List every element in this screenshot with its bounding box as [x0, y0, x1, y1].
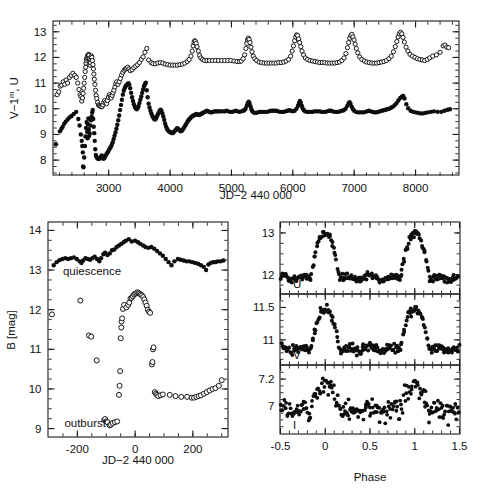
tick-label: 1 — [412, 440, 418, 452]
data-point-filled — [309, 278, 313, 282]
data-point-filled — [116, 118, 120, 122]
data-point-open — [90, 58, 94, 62]
data-point-filled — [457, 410, 461, 414]
data-point-open — [84, 65, 88, 69]
tick-label: 9 — [40, 128, 46, 140]
tick-label: 0 — [322, 440, 328, 452]
data-point-filled — [406, 397, 410, 401]
data-point-filled — [448, 107, 452, 111]
data-point-filled — [424, 389, 428, 393]
data-point-filled — [389, 416, 393, 420]
data-point-filled — [409, 392, 413, 396]
top-xaxis-label: JD−2 440 000 — [220, 189, 292, 201]
tick-label: 13 — [29, 264, 42, 276]
data-point-filled — [145, 88, 149, 92]
data-point-open — [389, 54, 393, 58]
data-point-filled — [355, 345, 359, 349]
data-point-filled — [93, 139, 97, 143]
data-point-filled — [385, 413, 389, 417]
data-point-filled — [296, 404, 300, 408]
data-point-filled — [419, 239, 423, 243]
data-point-open — [74, 75, 78, 79]
pi-panel-ticks — [281, 366, 460, 434]
data-point-filled — [121, 92, 125, 96]
tick-label: 4000 — [157, 182, 183, 194]
data-point-open — [115, 419, 120, 424]
data-point-filled — [99, 256, 103, 260]
data-point-filled — [328, 233, 332, 237]
data-point-filled — [453, 402, 457, 406]
data-point-open — [49, 312, 54, 317]
data-point-open — [402, 40, 406, 44]
data-point-open — [94, 358, 99, 363]
data-point-open — [76, 81, 80, 85]
data-point-open — [347, 40, 351, 44]
data-point-filled — [345, 271, 349, 275]
data-point-filled — [313, 250, 317, 254]
data-point-filled — [404, 102, 408, 106]
data-point-filled — [117, 113, 121, 117]
data-point-filled — [204, 268, 208, 272]
data-point-filled — [91, 117, 95, 121]
data-point-filled — [456, 275, 460, 279]
figure-root: 3000400050006000700080008910111213 JD−2 … — [0, 0, 477, 488]
data-point-open — [299, 45, 303, 49]
data-point-open — [190, 49, 194, 53]
tick-label: 0 — [132, 443, 138, 455]
data-point-filled — [395, 405, 399, 409]
bl-panel-frame — [48, 222, 228, 437]
panel-annotation: outburst — [64, 417, 106, 429]
data-point-filled — [80, 139, 84, 143]
data-point-filled — [429, 405, 433, 409]
data-point-open — [173, 394, 178, 399]
data-point-filled — [425, 260, 429, 264]
data-point-open — [243, 53, 247, 57]
tick-label: 0.5 — [362, 440, 378, 452]
data-point-filled — [280, 408, 284, 412]
data-point-filled — [417, 233, 421, 237]
data-point-filled — [377, 406, 381, 410]
tick-label: 11 — [263, 334, 275, 346]
data-point-filled — [349, 273, 353, 277]
pu-panel-label: U — [293, 278, 301, 290]
data-point-open — [118, 336, 123, 341]
tick-label: 13 — [262, 227, 275, 239]
figure-svg: 3000400050006000700080008910111213 JD−2 … — [0, 0, 477, 488]
data-point-open — [83, 69, 87, 73]
tick-label: 9 — [35, 423, 41, 435]
tick-label: 12 — [29, 304, 42, 316]
data-point-filled — [118, 108, 122, 112]
data-point-filled — [410, 385, 414, 389]
data-point-filled — [351, 342, 355, 346]
pv-panel-frame — [280, 294, 460, 365]
tick-label: 11 — [30, 343, 42, 355]
tick-label: 10 — [29, 383, 42, 395]
data-point-filled — [310, 399, 314, 403]
data-point-filled — [92, 131, 96, 135]
data-point-filled — [426, 269, 430, 273]
data-point-filled — [398, 399, 402, 403]
pv-panel-tick-labels: 1111.5 — [253, 301, 275, 345]
pu-panel-data-points — [279, 229, 460, 285]
data-point-filled — [432, 109, 436, 113]
data-point-open — [352, 38, 356, 42]
data-point-filled — [82, 155, 86, 159]
pi-panel-data-points — [279, 376, 461, 426]
data-point-filled — [313, 328, 317, 332]
data-point-filled — [378, 420, 382, 424]
data-point-filled — [427, 421, 431, 425]
pi-panel-label: I — [293, 419, 296, 431]
data-point-open — [83, 75, 87, 79]
data-point-filled — [88, 131, 92, 135]
data-point-filled — [401, 411, 405, 415]
data-point-filled — [405, 319, 409, 323]
data-point-filled — [129, 91, 133, 95]
data-point-filled — [326, 393, 330, 397]
data-point-filled — [310, 404, 314, 408]
data-point-filled — [398, 278, 402, 282]
data-point-open — [92, 77, 96, 81]
data-point-open — [148, 310, 153, 315]
data-point-filled — [347, 397, 351, 401]
data-point-open — [91, 67, 95, 71]
data-point-filled — [333, 253, 337, 257]
